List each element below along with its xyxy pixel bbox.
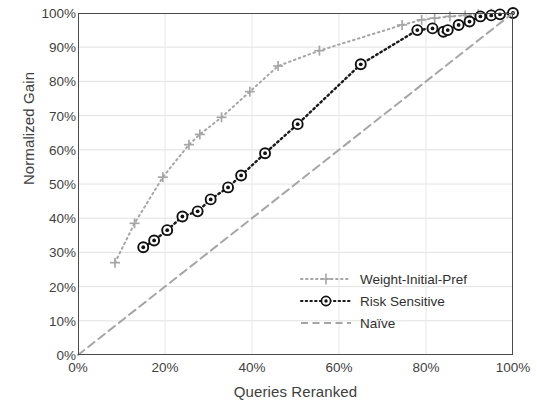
chart-figure: 0%10%20%30%40%50%60%70%80%90%100% Normal… [0,0,537,409]
legend-key-risk-sensitive [300,294,352,308]
legend-item: Weight-Initial-Pref [300,268,467,290]
legend-label: Naïve [360,316,395,331]
legend-item: Risk Sensitive [300,290,467,312]
chart-legend: Weight-Initial-Pref Risk Sensitive Naïve [300,268,467,334]
legend-key-weight-initial-pref [300,272,352,286]
legend-key-naive [300,316,352,330]
legend-label: Weight-Initial-Pref [360,272,467,287]
legend-item: Naïve [300,312,467,334]
legend-label: Risk Sensitive [360,294,445,309]
